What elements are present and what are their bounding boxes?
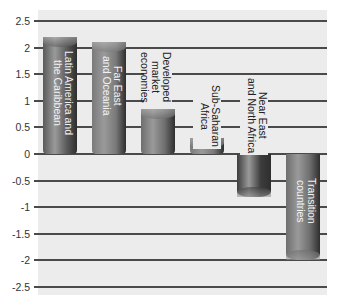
bar-label: Transition countries [289, 178, 317, 224]
y-tick-label: 2.5 [0, 15, 30, 27]
gridline [34, 100, 327, 102]
bar-cap [237, 187, 271, 197]
y-tick-label: 0 [0, 148, 30, 160]
y-tick-label: -1 [0, 201, 30, 213]
y-tick-label: -2.5 [0, 281, 30, 293]
bar-label: Near East and North Africa [240, 76, 268, 155]
gridline [34, 180, 327, 182]
bar-chart: 2.521.510.50-0.5-1-1.5-2-2.5 Latin Ameri… [0, 0, 339, 302]
bar-label: Developed market economies [144, 50, 172, 105]
gridline [34, 259, 327, 261]
gridline [34, 73, 327, 75]
bar-label: Far East and Oceania [95, 56, 123, 116]
bar-label: Latin America and the Caribbean [46, 51, 74, 135]
gridline [34, 126, 327, 128]
bar-cap [141, 109, 175, 119]
bar-label: Sub-Saharan Africa [193, 83, 221, 149]
y-tick-label: -0.5 [0, 175, 30, 187]
gridline [34, 206, 327, 208]
y-tick-label: 1.5 [0, 68, 30, 80]
bar-cap [43, 37, 77, 47]
bar [141, 109, 175, 154]
gridline [34, 233, 327, 235]
bar [237, 154, 271, 197]
gridline [34, 153, 327, 155]
y-tick-label: -2 [0, 254, 30, 266]
y-tick-label: -1.5 [0, 228, 30, 240]
gridline [34, 47, 327, 49]
y-tick-label: 2 [0, 42, 30, 54]
gridline [34, 20, 327, 22]
y-tick-label: 1 [0, 95, 30, 107]
y-tick-label: 0.5 [0, 121, 30, 133]
bar-cap [286, 250, 320, 260]
bar-cap [92, 42, 126, 52]
gridline [34, 286, 327, 288]
